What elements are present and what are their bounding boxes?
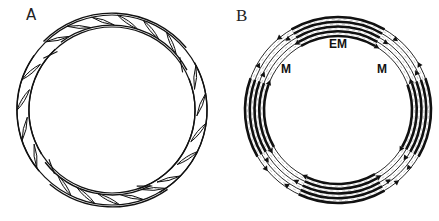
concentric-ring-diagram [220, 0, 439, 221]
arrowhead-icon [394, 180, 400, 185]
spindle-cell [197, 94, 206, 116]
em-region-label: EM [329, 37, 347, 51]
em-segment-line [307, 174, 375, 184]
cell-ring-diagram [0, 0, 220, 221]
cluster-inner-edge [61, 25, 187, 70]
spindle-cell [92, 17, 115, 25]
ring-track [257, 29, 419, 191]
spindle-cell [194, 65, 197, 89]
ring-line [259, 31, 417, 189]
arrowhead-icon [277, 35, 283, 40]
spindle-cell [67, 25, 91, 28]
ring-line [264, 36, 412, 184]
inner-ring [29, 27, 195, 193]
cell-ring [17, 13, 207, 207]
spindle-cell [22, 117, 27, 141]
m-region-label-right: M [377, 62, 387, 76]
panel-b: B EM M M [220, 0, 439, 221]
panel-a: A [0, 0, 220, 221]
arrowhead-icon [263, 166, 268, 172]
ring-track [262, 34, 415, 187]
ring-line [255, 27, 422, 194]
m-region-label-left: M [281, 62, 291, 76]
spindle-cell [120, 195, 144, 200]
